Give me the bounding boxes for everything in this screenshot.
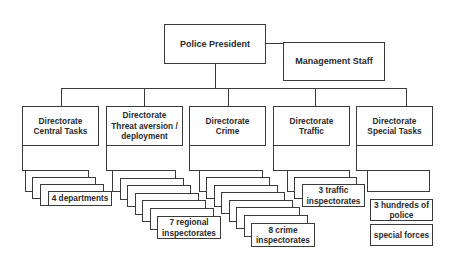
connector-d3 bbox=[228, 88, 229, 106]
directorate-threat-aversion-box: Directorate Threat aversion / deployment bbox=[106, 106, 183, 146]
directorate-crime-label: Directorate Crime bbox=[206, 116, 250, 137]
connector-d5 bbox=[406, 88, 407, 106]
directorate-special-tasks-box: Directorate Special Tasks bbox=[356, 106, 433, 146]
connector-threat-stack bbox=[106, 146, 107, 171]
connector-d4 bbox=[315, 88, 316, 106]
connector-crime-stack bbox=[189, 146, 190, 171]
connector-central-stack bbox=[22, 146, 23, 171]
management-staff-label: Management Staff bbox=[295, 56, 373, 67]
connector-traffic-stack bbox=[273, 146, 274, 171]
special-forces-box: special forces bbox=[370, 224, 433, 246]
special-forces-label: special forces bbox=[374, 230, 429, 241]
crime-inspectorates-label: 8 crime inspectorates bbox=[256, 225, 310, 246]
directorate-crime-box: Directorate Crime bbox=[189, 106, 266, 146]
connector-special-stack bbox=[356, 146, 357, 171]
directorate-special-tasks-label: Directorate Special Tasks bbox=[367, 116, 421, 137]
connector-president-staff bbox=[266, 43, 283, 44]
special-tasks-hundreds-box: 3 hundreds of police bbox=[370, 199, 433, 221]
special-tasks-unit-empty-box bbox=[367, 170, 430, 192]
crime-inspectorates-box: 8 crime inspectorates bbox=[251, 223, 315, 247]
connector-directorate-bus bbox=[61, 88, 407, 89]
traffic-inspectorates-label: 3 traffic inspectorates bbox=[307, 185, 361, 206]
directorate-traffic-label: Directorate Traffic bbox=[290, 116, 334, 137]
central-departments-box: 4 departments bbox=[48, 191, 112, 206]
directorate-threat-aversion-label: Directorate Threat aversion / deployment bbox=[111, 110, 177, 142]
threat-inspectorates-box: 7 regional inspectorates bbox=[157, 216, 221, 239]
central-departments-label: 4 departments bbox=[52, 193, 109, 204]
traffic-inspectorates-box: 3 traffic inspectorates bbox=[302, 184, 365, 207]
threat-inspectorates-label: 7 regional inspectorates bbox=[162, 217, 216, 238]
police-president-label: Police President bbox=[180, 39, 250, 50]
directorate-central-tasks-label: Directorate Central Tasks bbox=[34, 116, 88, 137]
special-tasks-hundreds-label: 3 hundreds of police bbox=[374, 200, 429, 221]
police-president-box: Police President bbox=[164, 24, 266, 64]
directorate-central-tasks-box: Directorate Central Tasks bbox=[22, 106, 99, 146]
connector-president-down bbox=[215, 63, 216, 89]
directorate-traffic-box: Directorate Traffic bbox=[273, 106, 350, 146]
connector-d1 bbox=[61, 88, 62, 106]
management-staff-box: Management Staff bbox=[283, 42, 385, 81]
connector-d2 bbox=[144, 88, 145, 106]
connector-traffic-stack-h bbox=[273, 170, 288, 171]
